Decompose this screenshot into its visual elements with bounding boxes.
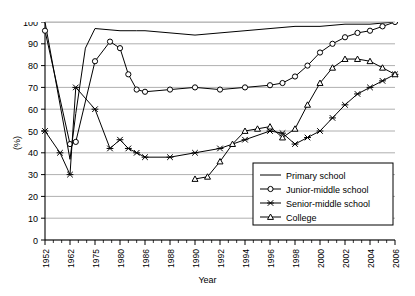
data-point-marker — [292, 141, 299, 147]
data-point-marker — [380, 24, 385, 29]
x-tick-label: 1962 — [66, 249, 76, 268]
data-point-marker — [242, 85, 247, 90]
data-point-marker — [317, 50, 322, 55]
data-point-marker — [57, 150, 64, 156]
top-mask — [0, 0, 415, 22]
data-point-marker — [107, 146, 114, 152]
x-tick-label: 1994 — [241, 249, 251, 268]
x-tick-label: 1988 — [166, 249, 176, 268]
y-tick-label: 50 — [28, 127, 38, 137]
data-point-marker — [267, 83, 272, 88]
x-tick-label: 2004 — [366, 249, 376, 268]
data-point-marker — [142, 154, 149, 160]
data-point-marker — [92, 59, 97, 64]
data-point-marker — [42, 28, 47, 33]
legend-label: Primary school — [286, 171, 346, 181]
data-point-marker — [142, 89, 147, 94]
data-point-marker — [167, 87, 172, 92]
y-tick-label: 0 — [33, 236, 38, 246]
data-point-marker — [268, 186, 273, 191]
data-point-marker — [367, 85, 374, 91]
x-tick-label: 1992 — [216, 249, 226, 268]
x-tick-label: 1952 — [41, 249, 51, 268]
x-tick-label: 1986 — [141, 249, 151, 268]
data-point-marker — [304, 135, 311, 141]
y-tick-label: 90 — [28, 39, 38, 49]
data-point-marker — [134, 87, 139, 92]
x-tick-label: 1980 — [116, 249, 126, 268]
data-point-marker — [192, 150, 199, 156]
data-point-marker — [73, 139, 78, 144]
data-point-marker — [317, 128, 324, 134]
data-point-marker — [192, 85, 197, 90]
data-point-marker — [117, 137, 124, 143]
data-point-marker — [107, 39, 112, 44]
data-point-marker — [354, 91, 361, 97]
data-point-marker — [126, 72, 131, 77]
data-point-marker — [167, 154, 174, 160]
series-line — [45, 22, 395, 144]
data-point-marker — [117, 46, 122, 51]
data-point-marker — [329, 115, 336, 121]
data-point-marker — [330, 41, 335, 46]
legend: Primary schoolJunior-middle schoolSenior… — [253, 163, 393, 225]
data-point-marker — [355, 30, 360, 35]
data-point-marker — [133, 150, 140, 156]
y-tick-label: 70 — [28, 83, 38, 93]
legend-label: Senior-middle school — [286, 199, 370, 209]
x-tick-label: 2002 — [341, 249, 351, 268]
x-tick-label: 1990 — [191, 249, 201, 268]
data-point-marker — [305, 102, 311, 107]
data-point-marker — [267, 124, 273, 129]
legend-label: Junior-middle school — [286, 185, 369, 195]
y-tick-label: 40 — [28, 148, 38, 158]
y-tick-label: 80 — [28, 61, 38, 71]
data-point-marker — [292, 126, 298, 131]
data-point-marker — [367, 28, 372, 33]
data-point-marker — [342, 102, 349, 108]
legend-label: College — [286, 213, 317, 223]
y-tick-label: 20 — [28, 192, 38, 202]
x-tick-label: 1975 — [91, 249, 101, 268]
y-tick-label: 30 — [28, 170, 38, 180]
data-point-marker — [92, 106, 99, 112]
data-point-marker — [217, 146, 224, 152]
x-tick-label: 1998 — [291, 249, 301, 268]
data-point-marker — [342, 35, 347, 40]
data-point-marker — [217, 87, 222, 92]
data-point-marker — [280, 80, 285, 85]
series-junior-middle-school — [42, 19, 397, 146]
y-tick-label: 10 — [28, 214, 38, 224]
x-tick-label: 2000 — [316, 249, 326, 268]
data-point-marker — [305, 63, 310, 68]
data-point-marker — [125, 146, 132, 152]
data-point-marker — [292, 74, 297, 79]
y-tick-label: 60 — [28, 105, 38, 115]
x-tick-label: 2006 — [391, 249, 401, 268]
line-chart-plot: 0102030405060708090100195219621975198019… — [0, 0, 415, 296]
data-point-marker — [242, 137, 249, 143]
chart-figure: (%) Year 0102030405060708090100195219621… — [0, 0, 415, 296]
data-point-marker — [379, 78, 386, 84]
x-tick-label: 1996 — [266, 249, 276, 268]
